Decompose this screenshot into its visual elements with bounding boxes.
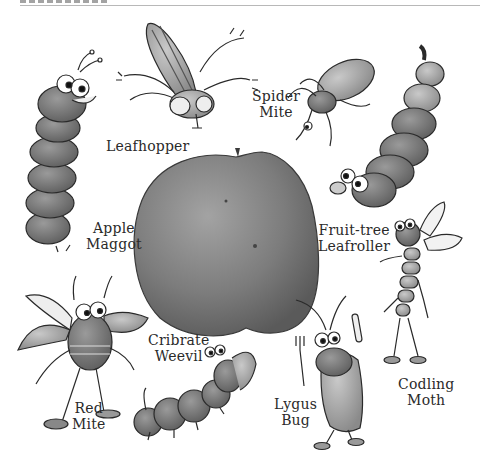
codling-moth-illustration (380, 202, 462, 364)
label-codling-moth: Codling Moth (398, 376, 454, 408)
label-line: Spider (252, 88, 300, 104)
spider-mite-illustration (288, 51, 381, 146)
label-line: Leafhopper (106, 138, 189, 154)
label-line: Maggot (86, 236, 142, 252)
label-apple-maggot: Apple Maggot (86, 220, 142, 252)
label-line: Red (72, 400, 106, 416)
label-line: Moth (398, 392, 454, 408)
label-line: Apple (86, 220, 142, 236)
label-line: Cribrate (148, 332, 209, 348)
label-leafhopper: Leafhopper (106, 138, 189, 154)
label-spider-mite: Spider Mite (252, 88, 300, 120)
label-line: Leafroller (318, 238, 390, 254)
label-cribrate-weevil: Cribrate Weevil (148, 332, 209, 364)
label-line: Codling (398, 376, 454, 392)
label-lygus-bug: Lygus Bug (274, 396, 317, 428)
label-line: Fruit-tree (318, 222, 390, 238)
apple-illustration (134, 148, 318, 336)
label-line: Mite (252, 104, 300, 120)
label-line: Mite (72, 416, 106, 432)
label-line: Lygus (274, 396, 317, 412)
label-line: Bug (274, 412, 317, 428)
leafhopper-illustration (116, 23, 258, 128)
label-line: Weevil (148, 348, 209, 364)
label-red-mite: Red Mite (72, 400, 106, 432)
label-fruit-tree-leafroller: Fruit-tree Leafroller (318, 222, 390, 254)
